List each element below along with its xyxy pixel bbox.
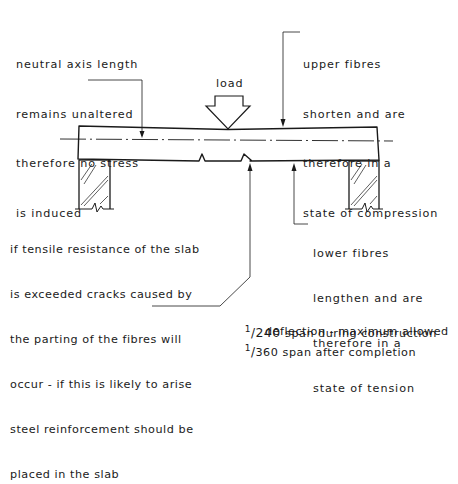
- annotation-line: is exceeded cracks caused by: [10, 287, 200, 302]
- deflection-rule-text: span after completion: [283, 346, 416, 359]
- upper-fibres-annotation: upper fibres shorten and are therefore i…: [303, 24, 438, 239]
- annotation-line: if tensile resistance of the slab: [10, 242, 200, 257]
- annotation-line: shorten and are: [303, 107, 438, 124]
- annotation-line: remains unaltered: [16, 107, 139, 124]
- annotation-line: lower fibres: [313, 246, 423, 261]
- load-label: load: [216, 76, 244, 93]
- annotation-line: steel reinforcement should be: [10, 422, 200, 437]
- neutral-axis-annotation: neutral axis length remains unaltered th…: [16, 24, 139, 239]
- tensile-cracks-annotation: if tensile resistance of the slab is exc…: [10, 212, 200, 484]
- annotation-line: therefore in a: [303, 156, 438, 173]
- deflection-rule-360: 1/360 span after completion: [236, 323, 416, 361]
- annotation-line: the parting of the fibres will: [10, 332, 200, 347]
- load-arrow-icon: [206, 96, 250, 129]
- annotation-line: placed in the slab: [10, 467, 200, 482]
- annotation-line: neutral axis length: [16, 57, 139, 74]
- upper-fibres-leader: [283, 32, 300, 124]
- annotation-line: state of tension: [313, 381, 423, 396]
- fraction-denominator: 360: [255, 346, 278, 359]
- annotation-line: upper fibres: [303, 57, 438, 74]
- annotation-line: therefore no stress: [16, 156, 139, 173]
- annotation-line: occur - if this is likely to arise: [10, 377, 200, 392]
